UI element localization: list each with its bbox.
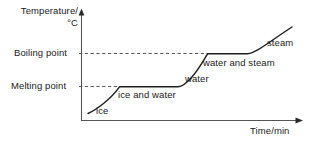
x-axis <box>82 118 304 124</box>
x-axis-title: Time/min <box>250 125 290 136</box>
y-axis-title: Temperature/ °C <box>6 5 78 29</box>
heating-curve-figure: Temperature/ °C Boiling point Melting po… <box>0 0 327 141</box>
y-axis-title-line2: °C <box>6 17 78 29</box>
y-axis <box>79 9 85 122</box>
curve-label-water: water <box>185 73 209 84</box>
y-axis-title-line1: Temperature/ <box>6 5 78 17</box>
curve-label-ice: ice <box>96 105 108 116</box>
curve-label-water-and-steam: water and steam <box>203 57 275 68</box>
curve-label-steam: steam <box>267 37 293 48</box>
boiling-point-label: Boiling point <box>14 47 76 58</box>
melting-point-label: Melting point <box>11 80 76 91</box>
heating-curve-line <box>88 27 292 114</box>
curve-label-ice-and-water: ice and water <box>118 89 176 100</box>
